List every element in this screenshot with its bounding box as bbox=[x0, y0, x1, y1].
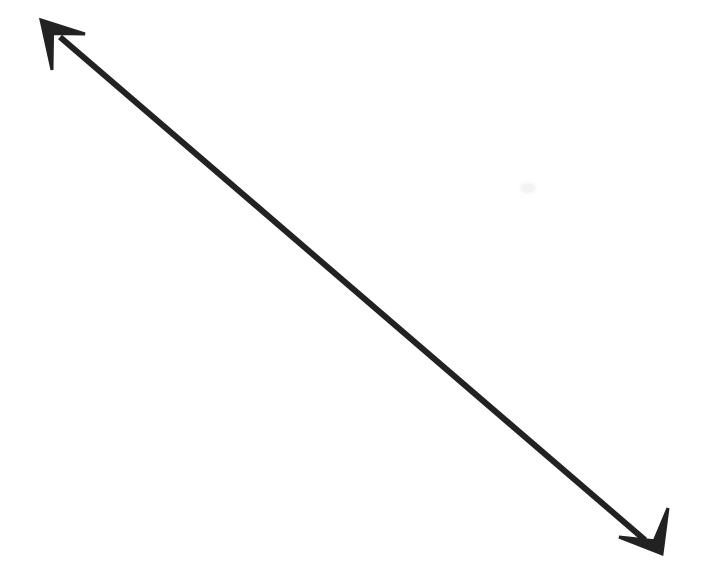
double-headed-arrow-graphic bbox=[0, 0, 706, 586]
arrow-canvas: Hand-drawn style double-headed straight … bbox=[0, 0, 706, 586]
faint-smudge-mark bbox=[520, 183, 536, 194]
